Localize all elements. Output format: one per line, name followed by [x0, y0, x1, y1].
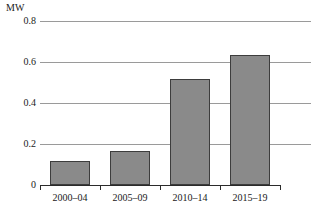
bars-layer — [40, 21, 311, 185]
x-tick-1 — [100, 185, 101, 190]
bar-chart: MW 0.8 0.6 0.4 0.2 0 2000–04 2005–09 201… — [0, 0, 328, 216]
x-tick-2 — [160, 185, 161, 190]
bar-slot-2000-04 — [40, 21, 100, 185]
y-tick-label-0.2: 0.2 — [2, 139, 36, 149]
x-category-label-2015-19: 2015–19 — [220, 192, 280, 204]
x-category-label-2005-09: 2005–09 — [100, 192, 160, 204]
x-tick-3 — [220, 185, 221, 190]
bar-slot-2015-19 — [220, 21, 280, 185]
x-tick-4 — [280, 185, 281, 190]
bar-2005-09[interactable] — [110, 151, 150, 185]
bar-slot-2005-09 — [100, 21, 160, 185]
bar-2015-19[interactable] — [230, 55, 270, 185]
y-tick-label-0: 0 — [2, 180, 36, 190]
bar-2000-04[interactable] — [50, 161, 90, 185]
y-tick-label-0.8: 0.8 — [2, 16, 36, 26]
y-tick-label-0.4: 0.4 — [2, 98, 36, 108]
x-category-label-2010-14: 2010–14 — [160, 192, 220, 204]
bar-slot-2010-14 — [160, 21, 220, 185]
x-category-label-2000-04: 2000–04 — [40, 192, 100, 204]
bar-2010-14[interactable] — [170, 79, 210, 185]
x-tick-0 — [40, 185, 41, 190]
y-tick-label-0.6: 0.6 — [2, 57, 36, 67]
y-axis-unit-label: MW — [6, 2, 25, 13]
